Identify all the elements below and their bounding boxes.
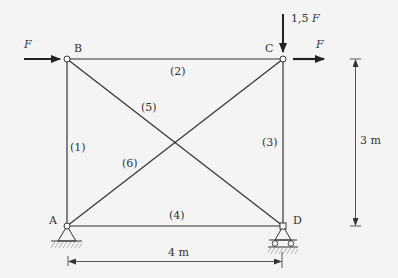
- load-label-c-vertical: 1,5 F: [291, 12, 320, 25]
- member-label-1: (1): [70, 141, 86, 154]
- joint-b: [64, 56, 70, 62]
- member-label-4: (4): [169, 209, 185, 222]
- member-label-6: (6): [122, 157, 138, 170]
- joint-a: [64, 223, 70, 229]
- load-arrow-c-vertical: 1,5 F: [283, 12, 320, 52]
- truss-diagram: B C A D (1) (2) (3) (4) (5) (6) F F 1,5 …: [0, 0, 398, 278]
- load-label-b: F: [23, 38, 32, 51]
- member-label-2: (2): [170, 65, 186, 78]
- node-label-c: C: [265, 42, 273, 55]
- dimension-label-height: 3 m: [360, 134, 381, 147]
- node-label-b: B: [74, 42, 82, 55]
- joint-d: [280, 223, 286, 229]
- truss-members: [67, 59, 283, 226]
- roller-support-icon: [268, 226, 298, 254]
- member-label-5: (5): [141, 101, 157, 114]
- load-arrow-b: F: [23, 38, 60, 59]
- joint-c: [280, 56, 286, 62]
- dimension-label-width: 4 m: [168, 246, 189, 259]
- node-label-d: D: [293, 214, 302, 227]
- member-label-3: (3): [262, 136, 278, 149]
- node-label-a: A: [48, 214, 58, 227]
- load-arrow-c-horizontal: F: [293, 38, 324, 59]
- load-label-c-horizontal: F: [315, 38, 324, 51]
